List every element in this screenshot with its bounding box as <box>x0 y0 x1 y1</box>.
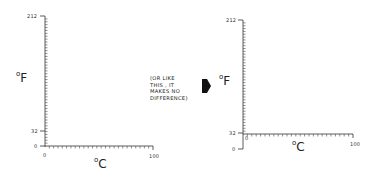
right-x-tick-0: 0 <box>245 135 248 141</box>
right-x-tick-100: 100 <box>350 141 360 147</box>
left-y-axis-unit: oF <box>16 71 27 85</box>
left-y-tick-32: 32 <box>31 128 38 134</box>
right-y-tick-0: 0 <box>232 146 235 152</box>
arrow-right-icon <box>202 79 211 93</box>
right-x-axis-unit: oC <box>292 140 305 154</box>
left-y-tick-0: 0 <box>34 143 37 149</box>
right-y-tick-212: 212 <box>226 17 236 23</box>
note-text: (OR LIKE THIS , IT MAKES NO DIFFERENCE) <box>150 75 188 101</box>
left-x-tick-100: 100 <box>149 153 159 159</box>
left-x-axis-unit: oC <box>94 157 107 171</box>
right-y-axis-unit: oF <box>219 74 230 88</box>
left-x-tick-0: 0 <box>43 152 46 158</box>
left-y-tick-212: 212 <box>27 13 37 19</box>
right-y-tick-32: 32 <box>229 130 236 136</box>
